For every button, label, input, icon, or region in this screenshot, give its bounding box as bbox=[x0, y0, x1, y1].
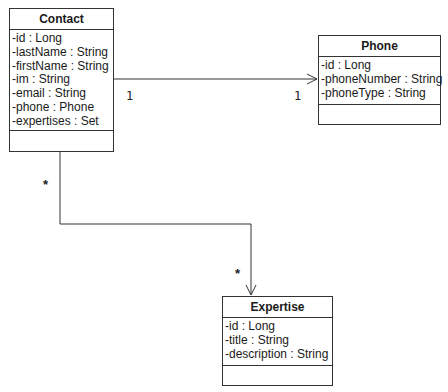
attribute: -id : Long bbox=[225, 320, 332, 334]
operations-compartment bbox=[10, 131, 113, 151]
class-name: Expertise bbox=[223, 297, 332, 318]
attribute: -id : Long bbox=[321, 59, 440, 73]
attributes-compartment: -id : Long -lastName : String -firstName… bbox=[10, 30, 113, 131]
multiplicity-contact-expertise-source: * bbox=[43, 177, 48, 192]
attributes-compartment: -id : Long -phoneNumber : String -phoneT… bbox=[319, 57, 440, 105]
attribute: -phoneType : String bbox=[321, 87, 440, 101]
association-contact-phone bbox=[113, 74, 317, 84]
operations-compartment bbox=[223, 366, 332, 385]
class-contact[interactable]: Contact -id : Long -lastName : String -f… bbox=[9, 8, 114, 152]
class-name: Phone bbox=[319, 36, 440, 57]
attribute: -expertises : Set bbox=[12, 115, 113, 129]
attribute: -firstName : String bbox=[12, 60, 113, 74]
attribute: -email : String bbox=[12, 87, 113, 101]
attribute: -lastName : String bbox=[12, 46, 113, 60]
multiplicity-contact-phone-target: 1 bbox=[294, 89, 301, 103]
attribute: -phone : Phone bbox=[12, 101, 113, 115]
attribute: -title : String bbox=[225, 334, 332, 348]
attributes-compartment: -id : Long -title : String -description … bbox=[223, 318, 332, 366]
attribute: -description : String bbox=[225, 348, 332, 362]
multiplicity-contact-expertise-target: * bbox=[235, 266, 240, 281]
association-contact-expertise bbox=[60, 151, 256, 295]
attribute: -id : Long bbox=[12, 32, 113, 46]
operations-compartment bbox=[319, 105, 440, 124]
class-expertise[interactable]: Expertise -id : Long -title : String -de… bbox=[222, 296, 333, 386]
multiplicity-contact-phone-source: 1 bbox=[126, 89, 133, 103]
class-phone[interactable]: Phone -id : Long -phoneNumber : String -… bbox=[318, 35, 441, 125]
class-name: Contact bbox=[10, 9, 113, 30]
attribute: -phoneNumber : String bbox=[321, 73, 440, 87]
attribute: -im : String bbox=[12, 73, 113, 87]
